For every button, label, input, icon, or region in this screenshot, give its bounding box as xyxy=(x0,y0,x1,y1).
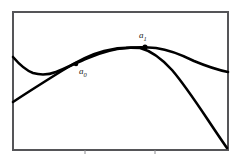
point-label-a1-subscript: 1 xyxy=(144,35,147,42)
marker-a0 xyxy=(74,62,79,67)
figure-container: a0 a1 xyxy=(0,0,239,165)
point-label-a0-subscript: 0 xyxy=(84,71,87,78)
point-label-a0: a0 xyxy=(79,67,87,78)
point-label-a1: a1 xyxy=(139,31,147,42)
flat-curve xyxy=(13,47,228,74)
marker-a1 xyxy=(142,44,147,49)
plot-area xyxy=(0,0,239,165)
